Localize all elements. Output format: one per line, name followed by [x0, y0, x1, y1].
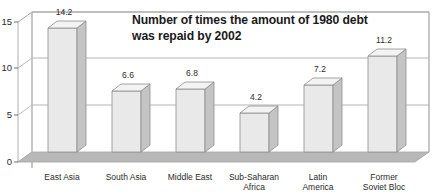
bar-sub-saharan-africa — [240, 106, 278, 152]
y-axis-tick-label-0: 0 — [0, 157, 12, 167]
value-label-south-asia: 6.6 — [106, 71, 150, 80]
category-label-former-soviet-bloc: Former Soviet Bloc — [346, 172, 422, 192]
category-label-line: Middle East — [168, 172, 212, 182]
y-axis-tick-label-5: 5 — [0, 110, 12, 120]
category-label-east-asia: East Asia — [26, 172, 98, 182]
bar-latin-america — [304, 78, 342, 152]
bar-former-soviet-bloc — [368, 49, 406, 152]
bar-chart-figure: Number of times the amount of 1980 debt … — [0, 0, 435, 196]
value-label-middle-east: 6.8 — [170, 69, 214, 78]
category-label-south-asia: South Asia — [90, 172, 162, 182]
category-label-line: Sub-Saharan — [229, 172, 279, 182]
category-label-line: Africa — [243, 182, 265, 192]
axis-wall — [18, 12, 32, 162]
category-label-middle-east: Middle East — [154, 172, 226, 182]
category-label-latin-america: Latin America — [282, 172, 354, 192]
bar-east-asia — [48, 21, 86, 152]
y-axis-ticks — [14, 22, 18, 162]
chart-title-line-1: Number of times the amount of 1980 debt — [132, 12, 382, 28]
chart-title: Number of times the amount of 1980 debt … — [132, 12, 382, 44]
value-label-former-soviet-bloc: 11.2 — [362, 36, 406, 45]
category-label-line: East Asia — [44, 172, 79, 182]
y-axis-tick-label-15: 15 — [0, 17, 12, 27]
chart-title-line-2: was repaid by 2002 — [132, 28, 382, 44]
category-label-line: Former — [370, 172, 397, 182]
value-label-east-asia: 14.2 — [42, 8, 86, 17]
bar-middle-east — [176, 82, 214, 152]
category-label-line: Soviet Bloc — [363, 182, 406, 192]
category-label-line: America — [302, 182, 333, 192]
category-label-line: Latin — [309, 172, 327, 182]
value-label-sub-saharan-africa: 4.2 — [234, 93, 278, 102]
bar-south-asia — [112, 84, 150, 152]
category-label-line: South Asia — [106, 172, 147, 182]
category-label-sub-saharan-africa: Sub-Saharan Africa — [218, 172, 290, 192]
value-label-latin-america: 7.2 — [298, 65, 342, 74]
y-axis-tick-label-10: 10 — [0, 63, 12, 73]
chart-floor — [18, 152, 429, 162]
